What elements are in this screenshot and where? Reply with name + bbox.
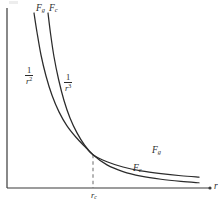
curve-tail-label-fc-sub: c (139, 166, 142, 173)
curve-tail-label-fg: Fg (152, 146, 161, 156)
physics-force-figure: Fg Fc 1 r2 1 r3 Fg Fc rc r (0, 0, 224, 210)
power-label-inverse-r-squared: 1 r2 (25, 66, 33, 85)
power-label-numerator-2: 1 (64, 73, 72, 82)
x-axis-label-r: r (214, 182, 218, 192)
plot-canvas (0, 0, 224, 210)
curve-tail-label-fc: Fc (133, 164, 142, 174)
curve-top-label-fg-sub: g (42, 6, 45, 13)
curve-top-label-fc: Fc (49, 4, 58, 14)
curve-fg-gravitational (34, 13, 199, 177)
curve-top-label-fc-sub: c (55, 6, 58, 13)
power-label-denominator-1: r2 (25, 77, 33, 86)
x-tick-label-rc-sub: c (94, 194, 97, 200)
power-label-exponent-2: 3 (68, 83, 71, 89)
curve-top-label-fg: Fg (36, 4, 45, 14)
power-label-inverse-r-cubed: 1 r3 (64, 73, 72, 92)
x-tick-label-rc: rc (91, 191, 97, 201)
curve-fc-centripetal (48, 13, 199, 183)
curve-tail-label-fg-sub: g (158, 148, 161, 155)
power-label-exponent-1: 2 (29, 76, 32, 82)
power-label-denominator-2: r3 (64, 84, 72, 93)
power-label-numerator-1: 1 (25, 66, 33, 75)
x-axis-arrow-icon (208, 186, 211, 189)
